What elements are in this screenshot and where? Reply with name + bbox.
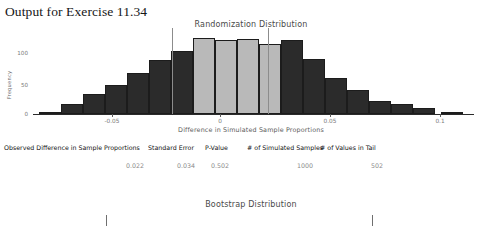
y-tick-label-50: 50: [6, 82, 28, 88]
table-header-standard-error: Standard Error: [148, 144, 194, 151]
histogram-bar: [215, 40, 237, 114]
summary-table: Observed Difference in Sample Proportion…: [0, 144, 478, 184]
reference-line-upper: [268, 28, 269, 114]
table-header-observed-difference: Observed Difference in Sample Proportion…: [4, 144, 140, 151]
x-axis-label: Difference in Simulated Sample Proportio…: [0, 126, 478, 134]
x-tick-mark: [440, 114, 441, 117]
reference-line-lower: [172, 28, 173, 114]
histogram-bar: [369, 101, 391, 114]
histogram-bar: [281, 40, 303, 114]
bootstrap-reference-line-lower: [106, 215, 107, 226]
randomization-distribution-chart: Randomization Distribution Frequency 100…: [0, 20, 478, 135]
table-value-values-in-tail: 502: [371, 162, 383, 169]
histogram-bar: [325, 78, 347, 114]
histogram-bar: [127, 73, 149, 114]
histogram-bar: [303, 59, 325, 114]
table-value-p-value: 0.502: [211, 162, 229, 169]
x-tick-mark: [330, 114, 331, 117]
x-tick-label-01: 0.1: [420, 118, 460, 124]
histogram-bar: [347, 90, 369, 114]
x-axis-label-text: Difference in Simulated Sample Proportio…: [154, 126, 324, 134]
x-tick-label-005: 0.05: [310, 118, 350, 124]
y-tick-label-100: 100: [6, 50, 28, 56]
y-tick-label-0: 0: [6, 111, 28, 117]
table-value-standard-error: 0.034: [177, 162, 195, 169]
histogram-bar: [391, 104, 413, 114]
bootstrap-distribution-chart: Bootstrap Distribution: [0, 200, 478, 228]
randomization-chart-title-text: Randomization Distribution: [171, 20, 308, 29]
histogram-bar: [61, 104, 83, 114]
x-tick-label-neg005: -0.05: [92, 118, 132, 124]
bootstrap-chart-title: Bootstrap Distribution: [0, 200, 478, 209]
table-value-observed-difference: 0.022: [126, 162, 144, 169]
histogram-bar: [193, 38, 215, 114]
histogram-bar: [105, 85, 127, 114]
table-header-simulated-samples: # of Simulated Samples: [247, 144, 323, 151]
histogram-bar: [83, 94, 105, 114]
x-tick-label-0: 0: [200, 118, 240, 124]
table-header-p-value: P-Value: [205, 144, 228, 151]
histogram-bar: [171, 51, 193, 114]
x-tick-mark: [220, 114, 221, 117]
bootstrap-chart-title-text: Bootstrap Distribution: [181, 200, 297, 209]
x-axis-line: [33, 114, 474, 115]
table-value-simulated-samples: 1000: [297, 162, 313, 169]
table-header-values-in-tail: # of Values in Tail: [320, 144, 376, 151]
randomization-chart-title: Randomization Distribution: [0, 20, 478, 29]
page-title: Output for Exercise 11.34: [5, 4, 147, 20]
histogram-bar: [259, 44, 281, 114]
histogram-bar: [237, 39, 259, 114]
x-tick-mark: [112, 114, 113, 117]
bootstrap-reference-line-upper: [372, 215, 373, 226]
histogram-plot-area: [33, 32, 474, 114]
histogram-bar: [149, 60, 171, 114]
